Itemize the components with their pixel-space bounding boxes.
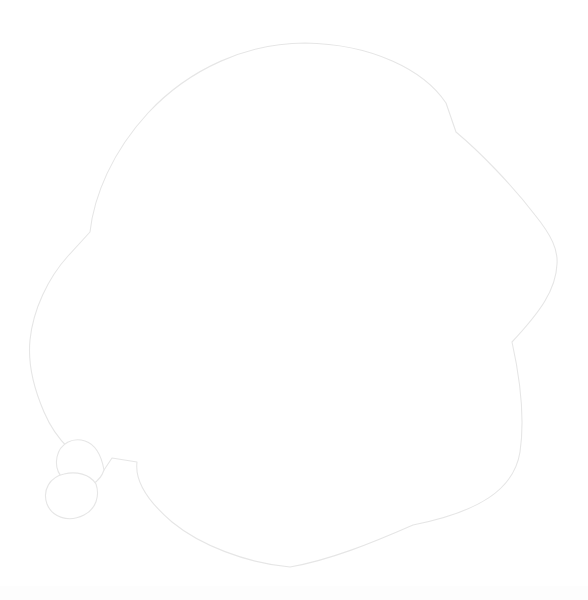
drawing-canvas (0, 0, 588, 600)
blob-outline-figure (0, 0, 588, 600)
blob-lower-lobe-path (46, 473, 98, 519)
blob-main-outline-path (29, 43, 557, 567)
